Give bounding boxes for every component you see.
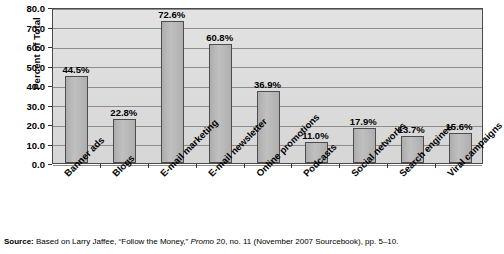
x-tick-mark (291, 164, 292, 168)
y-tick-mark (48, 164, 52, 165)
bar-value-label: 22.8% (110, 107, 137, 118)
x-tick-mark (196, 164, 197, 168)
bar-value-label: 72.6% (158, 9, 185, 20)
y-tick-label: 50.0 (9, 61, 45, 72)
bar (161, 21, 184, 163)
y-tick-label: 60.0 (9, 42, 45, 53)
x-tick-mark (339, 164, 340, 168)
source-label: Source: (4, 237, 34, 246)
source-note: Source: Based on Larry Jaffee, “Follow t… (4, 237, 398, 247)
y-tick-label: 0.0 (9, 159, 45, 170)
bar (209, 44, 232, 163)
y-tick-label: 70.0 (9, 22, 45, 33)
y-tick-label: 40.0 (9, 81, 45, 92)
x-tick-mark (100, 164, 101, 168)
gridline (53, 48, 482, 49)
x-tick-mark (244, 164, 245, 168)
source-publication: Promo (190, 237, 214, 246)
y-tick-label: 20.0 (9, 120, 45, 131)
bar-value-label: 17.9% (350, 116, 377, 127)
bar-value-label: 44.5% (62, 64, 89, 75)
gridline (53, 28, 482, 29)
gridline (53, 9, 482, 10)
x-tick-mark (148, 164, 149, 168)
x-tick-mark (435, 164, 436, 168)
y-tick-label: 80.0 (9, 3, 45, 14)
y-tick-label: 30.0 (9, 100, 45, 111)
bar-value-label: 60.8% (206, 32, 233, 43)
bar-value-label: 36.9% (254, 79, 281, 90)
source-text-before: Based on Larry Jaffee, “Follow the Money… (34, 237, 191, 246)
x-tick-mark (387, 164, 388, 168)
y-tick-label: 10.0 (9, 139, 45, 150)
gridline (53, 67, 482, 68)
source-text-after: 20, no. 11 (November 2007 Sourcebook), p… (214, 237, 398, 246)
